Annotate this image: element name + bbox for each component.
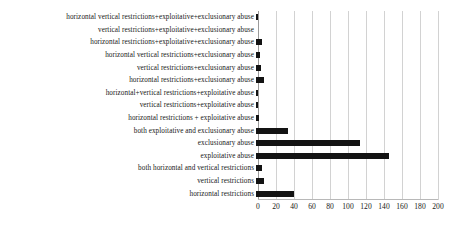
bar-track: [256, 175, 467, 188]
category-label: vertical restrictions+exclusionary abuse: [0, 64, 256, 72]
tick-label-80: 80: [326, 202, 334, 212]
bar-track: [256, 187, 467, 200]
category-label: horizontal restrictions+exclusionary abu…: [0, 76, 256, 84]
bar-track: [256, 99, 467, 112]
bar-track: [256, 87, 467, 100]
bar-track: [256, 74, 467, 87]
bar-row: both exploitative and exclusionary abuse: [0, 124, 467, 137]
bar: [256, 90, 258, 96]
bar-row: horizontal restrictions+exclusionary abu…: [0, 74, 467, 87]
tick-label-0: 0: [256, 202, 260, 212]
bar-track: [256, 137, 467, 150]
category-label: horizontal vertical restrictions+exclusi…: [0, 51, 256, 59]
bar: [256, 178, 264, 184]
bar-track: [256, 162, 467, 175]
category-label: vertical restrictions+exploitative+exclu…: [0, 26, 256, 34]
tick-label-200: 200: [432, 202, 443, 212]
bar: [256, 52, 260, 58]
bar: [256, 102, 258, 108]
bar-row: exploitative abuse: [0, 150, 467, 163]
bar-track: [256, 124, 467, 137]
bar: [256, 191, 294, 197]
bar-track: [256, 150, 467, 163]
bar: [256, 153, 389, 159]
bar: [256, 77, 264, 83]
bar-track: [256, 49, 467, 62]
bar-track: [256, 11, 467, 24]
bar-row: horizontal restrictions+exploitative+exc…: [0, 36, 467, 49]
tick-label-120: 120: [360, 202, 371, 212]
bar: [256, 140, 360, 146]
bar: [256, 165, 262, 171]
horizontal-bar-chart: horizontal vertical restrictions+exploit…: [0, 0, 467, 229]
bar-rows: horizontal vertical restrictions+exploit…: [0, 11, 467, 200]
bar-track: [256, 112, 467, 125]
bar-row: exclusionary abuse: [0, 137, 467, 150]
category-label: vertical restrictions: [0, 177, 256, 185]
category-label: vertical restrictions+exploitative abuse: [0, 101, 256, 109]
bar-track: [256, 36, 467, 49]
bar-row: horizontal vertical restrictions+exploit…: [0, 11, 467, 24]
bar-row: vertical restrictions+exploitative+exclu…: [0, 24, 467, 37]
category-label: both horizontal and vertical restriction…: [0, 164, 256, 172]
bar-track: [256, 24, 467, 37]
tick-label-100: 100: [342, 202, 353, 212]
bar-row: both horizontal and vertical restriction…: [0, 162, 467, 175]
category-label: horizontal restrictions + exploitative a…: [0, 114, 256, 122]
bar-track: [256, 61, 467, 74]
bar: [256, 128, 288, 134]
category-label: exclusionary abuse: [0, 139, 256, 147]
bar: [256, 14, 258, 20]
tick-label-160: 160: [396, 202, 407, 212]
bar-row: vertical restrictions: [0, 175, 467, 188]
bar-row: vertical restrictions+exploitative abuse: [0, 99, 467, 112]
bar: [256, 65, 261, 71]
tick-label-40: 40: [290, 202, 298, 212]
tick-label-60: 60: [308, 202, 316, 212]
bar-row: horizontal+vertical restrictions+exploit…: [0, 87, 467, 100]
category-label: both exploitative and exclusionary abuse: [0, 127, 256, 135]
bar-row: horizontal restrictions + exploitative a…: [0, 112, 467, 125]
tick-label-20: 20: [272, 202, 280, 212]
category-label: horizontal+vertical restrictions+exploit…: [0, 89, 256, 97]
tick-label-180: 180: [414, 202, 425, 212]
category-label: exploitative abuse: [0, 152, 256, 160]
category-label: horizontal restrictions+exploitative+exc…: [0, 38, 256, 46]
bar: [256, 39, 262, 45]
x-axis-tick-labels: 020406080100120140160180200: [258, 202, 438, 216]
tick-label-140: 140: [378, 202, 389, 212]
bar-row: horizontal restrictions: [0, 187, 467, 200]
category-label: horizontal restrictions: [0, 190, 256, 198]
category-label: horizontal vertical restrictions+exploit…: [0, 13, 256, 21]
bar-row: vertical restrictions+exclusionary abuse: [0, 61, 467, 74]
bar-row: horizontal vertical restrictions+exclusi…: [0, 49, 467, 62]
bar: [256, 115, 259, 121]
